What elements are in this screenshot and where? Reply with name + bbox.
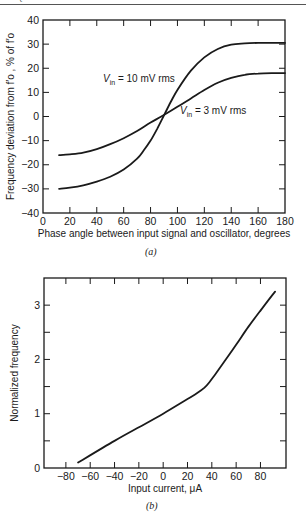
x-tick-label: 40 [206,470,218,482]
x-tick-label: −80 [57,470,75,482]
y-tick-label: 2 [34,353,40,365]
x-tick-label: 0 [160,470,166,482]
y-tick-label: 3 [34,299,40,311]
plot-frame [44,278,286,468]
y-axis-label: Normalized frequency [9,324,20,421]
y-tick-label: 1 [34,407,40,419]
y-tick-label: 0 [34,462,40,474]
chart-b-caption: (b) [146,500,158,511]
x-tick-label: 80 [255,470,267,482]
chart-a-caption: (a) [145,246,157,257]
x-tick-label: −20 [130,470,148,482]
chart-b-current-vs-normalized-frequency: −80−60−40−200204060800123Input current, … [0,0,306,521]
x-tick-label: −40 [106,470,124,482]
x-axis-label: Input current, μA [128,483,202,494]
x-tick-label: 20 [182,470,194,482]
x-tick-label: 60 [230,470,242,482]
series-line-0 [78,292,275,463]
x-tick-label: −60 [81,470,99,482]
